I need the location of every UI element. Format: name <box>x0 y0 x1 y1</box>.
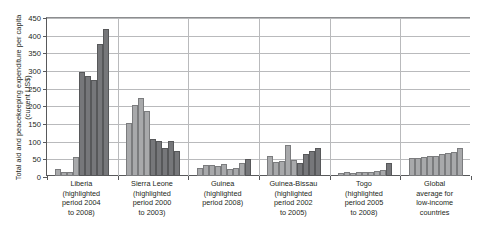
x-axis-group-label: Guinea(highlightedperiod 2008) <box>187 179 258 208</box>
x-axis-group-label: Liberia(highlightedperiod 2004to 2008) <box>46 179 117 217</box>
bar-group <box>188 18 259 176</box>
y-axis-tick-label: 200 <box>11 102 41 111</box>
y-axis-tick-label: 300 <box>11 67 41 76</box>
x-axis-group-label-line: Liberia <box>46 179 117 189</box>
x-axis-group-label-line: (highlighted <box>117 189 188 199</box>
bar-group <box>400 18 471 176</box>
y-axis-tick-label: 150 <box>11 120 41 129</box>
x-axis-group-label-line: Sierra Leone <box>117 179 188 189</box>
bar-group <box>118 18 189 176</box>
x-axis-group-label: Togo(highlightedperiod 2005to 2008) <box>329 179 400 217</box>
bar[interactable] <box>457 148 463 176</box>
x-axis-group-label-line: (highlighted <box>329 189 400 199</box>
y-axis-tick-label: 400 <box>11 31 41 40</box>
y-axis-tick-label: 250 <box>11 84 41 93</box>
x-axis-group-label-line: average for <box>399 189 470 199</box>
x-axis-group-label-line: (highlighted <box>258 189 329 199</box>
chart-container: Total aid and peacekeeping expenditure p… <box>0 0 479 230</box>
bar[interactable] <box>103 29 109 176</box>
bar[interactable] <box>245 159 251 176</box>
plot-area: 050100150200250300350400450 <box>46 17 470 176</box>
x-axis-group-label-line: period 2005 <box>329 198 400 208</box>
bar-group <box>330 18 401 176</box>
y-axis-tick-label: 50 <box>11 155 41 164</box>
x-axis-group-label-line: Global <box>399 179 470 189</box>
bar[interactable] <box>174 151 180 176</box>
bar-group <box>47 18 118 176</box>
x-axis-group-label-line: to 2005) <box>258 208 329 218</box>
x-axis-group-label-line: to 2008) <box>329 208 400 218</box>
x-axis-group-label-line: (highlighted <box>46 189 117 199</box>
x-axis-group-label-line: Guinea-Bissau <box>258 179 329 189</box>
x-axis-group-label-line: Togo <box>329 179 400 189</box>
x-axis-group-label: Guinea-Bissau(highlightedperiod 2002to 2… <box>258 179 329 217</box>
bar[interactable] <box>315 148 321 176</box>
x-axis-group-label-line: period 2000 <box>117 198 188 208</box>
y-axis-tick-label: 0 <box>11 173 41 182</box>
bar-group <box>259 18 330 176</box>
x-axis-group-label-line: low-income <box>399 198 470 208</box>
x-axis-group-label-line: Guinea <box>187 179 258 189</box>
x-axis-group-label-line: to 2003) <box>117 208 188 218</box>
x-axis-group-label-line: period 2008) <box>187 198 258 208</box>
y-axis-tick-label: 350 <box>11 49 41 58</box>
y-axis-tick-label: 100 <box>11 137 41 146</box>
x-axis-group-label-line: period 2004 <box>46 198 117 208</box>
x-axis-group-label: Sierra Leone(highlightedperiod 2000to 20… <box>117 179 188 217</box>
x-axis-tick <box>471 176 472 180</box>
x-axis-labels: Liberia(highlightedperiod 2004to 2008)Si… <box>46 179 470 230</box>
x-axis-group-label-line: (highlighted <box>187 189 258 199</box>
x-axis-group-label-line: countries <box>399 208 470 218</box>
bar[interactable] <box>386 163 392 176</box>
x-axis-group-label-line: to 2008) <box>46 208 117 218</box>
y-axis-tick-label: 450 <box>11 14 41 23</box>
x-axis-group-label: Globalaverage forlow-incomecountries <box>399 179 470 217</box>
x-axis-group-label-line: period 2002 <box>258 198 329 208</box>
